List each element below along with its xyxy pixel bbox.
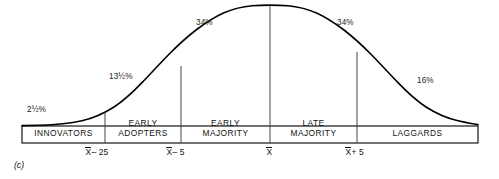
category-label-late-majority: LATE MAJORITY <box>270 119 357 138</box>
category-label-early-majority: EARLY MAJORITY <box>181 119 270 138</box>
tick-offset-minus-25: – 25 <box>91 147 108 157</box>
category-label-laggards: LAGGARDS <box>357 129 478 139</box>
percent-label-early-adopters: 13½% <box>109 72 133 81</box>
category-early-adopters-line2: ADOPTERS <box>105 129 181 139</box>
percent-label-late-majority: 34% <box>337 18 354 27</box>
mean-symbol: X <box>266 147 272 157</box>
tick-label-mean: X <box>266 147 272 157</box>
tick-label-mean-minus-5: X– 5 <box>166 147 184 157</box>
percent-label-laggards: 16% <box>417 76 434 85</box>
tick-offset-plus-5: + 5 <box>351 147 363 157</box>
adoption-curve-figure: 2½% 13½% 34% 34% 16% INNOVATORS EARLY AD… <box>0 0 499 179</box>
category-late-majority-line2: MAJORITY <box>270 129 357 139</box>
category-label-innovators: INNOVATORS <box>22 129 105 139</box>
percent-label-early-majority: 34% <box>196 18 213 27</box>
percent-label-innovators: 2½% <box>27 105 46 114</box>
bell-curve-path <box>22 5 478 126</box>
figure-caption: (c) <box>14 160 24 170</box>
category-label-early-adopters: EARLY ADOPTERS <box>105 119 181 138</box>
category-laggards-line1: LAGGARDS <box>392 128 442 138</box>
tick-label-mean-minus-25: X– 25 <box>85 147 108 157</box>
category-early-majority-line2: MAJORITY <box>181 129 270 139</box>
category-innovators-line1: INNOVATORS <box>34 128 92 138</box>
tick-label-mean-plus-5: X+ 5 <box>345 147 364 157</box>
distribution-chart-svg <box>0 0 499 179</box>
tick-offset-minus-5: – 5 <box>172 147 184 157</box>
